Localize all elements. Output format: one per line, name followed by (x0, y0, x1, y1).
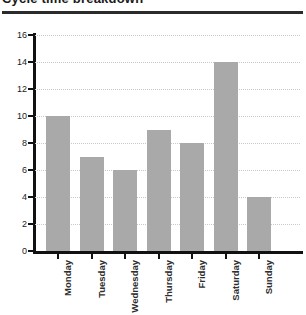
y-axis-tick-label: 8 (0, 138, 27, 148)
y-axis-tick-label: 4 (0, 192, 27, 202)
x-axis-tick-label: Thursday (163, 260, 174, 303)
y-axis-tick (28, 115, 34, 117)
y-axis-tick (28, 250, 34, 252)
bar (180, 143, 204, 251)
chart-figure: Cycle time breakdown 0246810121416 Monda… (0, 0, 306, 315)
x-axis-tick-label: Friday (196, 260, 207, 289)
x-axis-tick (225, 254, 227, 259)
y-axis-tick-label: 16 (0, 30, 27, 40)
y-axis-tick-label: 12 (0, 84, 27, 94)
x-axis-tick (91, 254, 93, 259)
y-axis-tick (28, 61, 34, 63)
y-axis-tick-label: 0 (0, 246, 27, 256)
bar (80, 157, 104, 252)
x-axis-tick-label: Monday (62, 260, 73, 296)
x-axis-tick (124, 254, 126, 259)
bar (147, 130, 171, 252)
x-axis-tick (158, 254, 160, 259)
gridline (35, 35, 300, 36)
y-axis-tick (28, 223, 34, 225)
y-axis-tick (28, 142, 34, 144)
y-axis-tick (28, 169, 34, 171)
x-axis-tick-label: Wednesday (129, 260, 140, 313)
x-axis-tick-label: Tuesday (96, 260, 107, 298)
gridline (35, 62, 300, 63)
x-axis-tick-label: Sunday (263, 260, 274, 294)
y-axis-tick (28, 34, 34, 36)
bar (113, 170, 137, 251)
gridline (35, 89, 300, 90)
y-axis-tick-label: 6 (0, 165, 27, 175)
y-axis-tick-label: 14 (0, 57, 27, 67)
y-axis-tick-label: 2 (0, 219, 27, 229)
x-axis-tick-label: Saturday (230, 260, 241, 301)
x-axis-line (33, 251, 303, 254)
bar (46, 116, 70, 251)
chart-title-clip: Cycle time breakdown (0, 0, 306, 9)
plot-area (35, 35, 300, 251)
x-axis-tick (258, 254, 260, 259)
y-axis-tick (28, 196, 34, 198)
y-axis-tick (28, 88, 34, 90)
bar (214, 62, 238, 251)
gridline (35, 116, 300, 117)
x-axis-tick (191, 254, 193, 259)
x-axis-tick (57, 254, 59, 259)
bar (247, 197, 271, 251)
chart-title: Cycle time breakdown (2, 0, 143, 6)
title-divider (2, 11, 303, 14)
y-axis-tick-label: 10 (0, 111, 27, 121)
